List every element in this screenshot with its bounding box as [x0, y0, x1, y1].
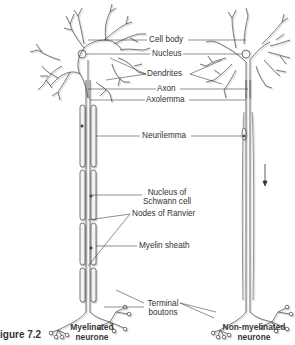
- caption-line: Non-myelinated: [223, 322, 286, 332]
- label-line: Schwann cell: [143, 197, 191, 206]
- label-myelin-sheath: Myelin sheath: [139, 241, 190, 250]
- label-line: Nucleus of: [148, 188, 187, 197]
- label-axon: Axon: [157, 84, 176, 93]
- caption-line: neurone: [75, 332, 108, 342]
- label-nodes-of-ranvier: Nodes of Ranvier: [132, 209, 195, 218]
- caption-line: Myelinated: [70, 322, 113, 332]
- leader-lines: [86, 40, 248, 318]
- label-neurilemma: Neurilemma: [142, 131, 186, 140]
- label-line: Terminal: [148, 299, 179, 308]
- myelin-segment: [80, 105, 85, 167]
- label-nucleus-of-schwann-cell: Nucleus of Schwann cell: [140, 188, 194, 207]
- arrow-down-icon: [263, 164, 267, 186]
- label-axolemma: Axolemma: [146, 95, 185, 104]
- non-myelinated-neurone: [200, 8, 293, 339]
- neurone-diagram: [0, 0, 295, 345]
- label-cell-body: Cell body: [149, 35, 183, 44]
- label-dendrites: Dendrites: [147, 69, 182, 78]
- left-cell-body: [42, 40, 122, 98]
- label-nucleus: Nucleus: [152, 49, 182, 58]
- caption-line: neurone: [237, 332, 270, 342]
- caption-non-myelinated-neurone: Non-myelinated neurone: [214, 322, 294, 342]
- label-line: boutons: [148, 308, 177, 317]
- figure-number: igure 7.2: [0, 329, 41, 340]
- label-terminal-boutons: Terminal boutons: [146, 299, 180, 318]
- caption-myelinated-neurone: Myelinated neurone: [60, 322, 124, 342]
- right-nucleus: [242, 50, 250, 58]
